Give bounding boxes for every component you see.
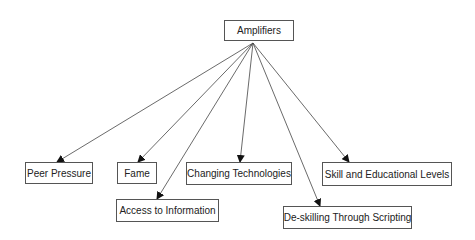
root-node-label: Amplifiers [237, 25, 281, 36]
node-changing-technologies: Changing Technologies [186, 162, 292, 185]
amplifiers-diagram: Amplifiers Peer Pressure Fame Access to … [0, 0, 475, 240]
arrow-connector [253, 43, 349, 162]
node-access-to-information: Access to Information [116, 199, 219, 222]
node-de-skilling-through-scripting: De-skilling Through Scripting [283, 206, 412, 229]
node-peer-pressure: Peer Pressure [25, 162, 93, 184]
node-label: Peer Pressure [27, 168, 91, 179]
node-skill-and-educational-levels: Skill and Educational Levels [322, 162, 452, 186]
node-label: Access to Information [119, 205, 215, 216]
node-label: Changing Technologies [187, 168, 291, 179]
node-label: Fame [124, 168, 150, 179]
node-label: Skill and Educational Levels [325, 169, 450, 180]
node-label: De-skilling Through Scripting [284, 212, 412, 223]
root-node-amplifiers: Amplifiers [224, 20, 294, 41]
node-fame: Fame [117, 162, 157, 184]
